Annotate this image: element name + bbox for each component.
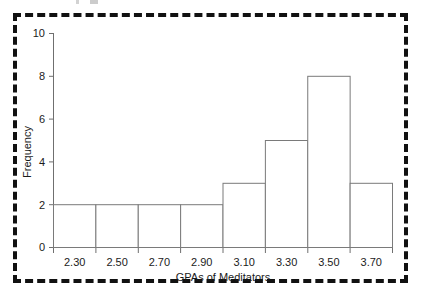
y-tick-label-4: 4: [39, 156, 45, 168]
y-tick-label-0: 0: [39, 241, 45, 253]
y-axis-title: Frequency: [21, 126, 33, 178]
x-tick-label-7: 3.50: [318, 256, 339, 268]
histogram-bar: [96, 205, 138, 248]
x-tick-label-3: 2.70: [149, 256, 170, 268]
y-tick-label-8: 8: [39, 70, 45, 82]
x-tick-label-8: 3.70: [361, 256, 382, 268]
histogram-bar: [138, 205, 180, 248]
y-tick-label-6: 6: [39, 113, 45, 125]
x-tick-label-5: 3.10: [233, 256, 254, 268]
histogram-bars: [54, 76, 393, 247]
histogram-figure: 10 8 6 4 2 0 Frequency 2.30 2.50: [0, 0, 422, 295]
x-tick-label-1: 2.30: [64, 256, 85, 268]
histogram-bar: [308, 76, 350, 247]
x-tick-label-2: 2.50: [106, 256, 127, 268]
x-tick-label-4: 2.90: [191, 256, 212, 268]
x-axis-title: GPAs of Meditators: [176, 271, 271, 283]
histogram-svg: 10 8 6 4 2 0 Frequency 2.30 2.50: [0, 0, 422, 295]
histogram-bar: [54, 205, 96, 248]
y-tick-label-2: 2: [39, 199, 45, 211]
histogram-bar: [350, 183, 392, 247]
y-tick-marks: [49, 34, 53, 248]
histogram-bar: [181, 205, 223, 248]
histogram-bar: [223, 183, 265, 247]
x-tick-marks: [54, 248, 393, 253]
plot-area-wrapper: 10 8 6 4 2 0 Frequency 2.30 2.50: [0, 0, 422, 295]
histogram-bar: [265, 141, 307, 248]
x-tick-label-6: 3.30: [276, 256, 297, 268]
y-tick-label-10: 10: [33, 27, 45, 39]
